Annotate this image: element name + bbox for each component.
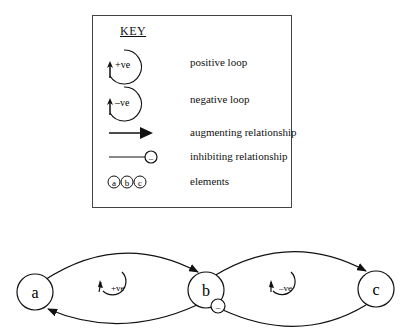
- element-symbol-b: b: [125, 178, 130, 188]
- edge-c-to-b-inhibiting: [223, 305, 366, 326]
- diagram-negative-loop-icon: –ve: [269, 272, 295, 295]
- node-c-label: c: [372, 281, 379, 298]
- diagram-positive-loop-label: +ve: [111, 283, 125, 293]
- inhibiting-symbol-text: –: [148, 153, 154, 163]
- node-a-label: a: [31, 284, 38, 301]
- edge-a-to-b: [43, 253, 198, 281]
- element-circles-icon: a b c: [108, 176, 146, 188]
- negative-loop-icon: –ve: [107, 87, 141, 121]
- positive-loop-icon: +ve: [107, 50, 141, 84]
- negative-loop-symbol-text: –ve: [114, 97, 130, 108]
- inhibitor-symbol-text: –: [215, 302, 221, 312]
- diagram-negative-loop-label: –ve: [278, 283, 292, 293]
- element-symbol-c: c: [138, 178, 142, 188]
- element-symbol-a: a: [112, 178, 116, 188]
- node-c: c: [358, 271, 394, 307]
- inhibiting-line-icon: –: [109, 151, 157, 163]
- positive-loop-symbol-text: +ve: [115, 59, 131, 70]
- augmenting-arrow-icon: [109, 127, 153, 139]
- node-b-label: b: [202, 282, 210, 299]
- diagram-canvas: +ve –ve – a b c +ve: [0, 0, 404, 335]
- edge-b-to-a: [48, 305, 197, 324]
- diagram-positive-loop-icon: +ve: [98, 272, 126, 295]
- inhibitor-on-b: –: [211, 299, 225, 313]
- node-a: a: [17, 274, 53, 310]
- edge-b-to-c: [214, 252, 366, 276]
